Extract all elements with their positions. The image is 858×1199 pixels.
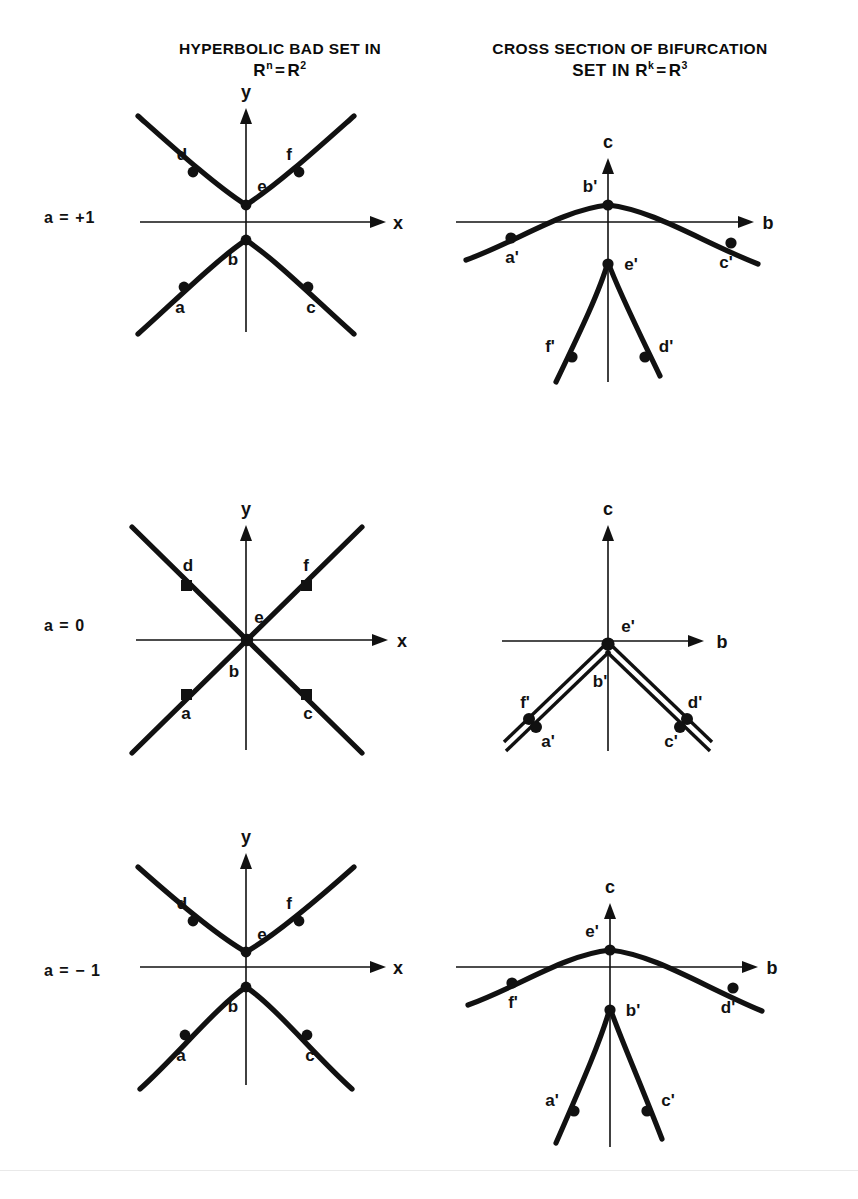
point-label-c: c <box>303 704 312 723</box>
bifurcation-cusp-right-branch <box>608 262 660 376</box>
x-axis-label: x <box>393 213 403 233</box>
y-axis-label: c <box>603 499 613 519</box>
bifurcation-cusp-right-branch <box>610 1008 662 1139</box>
x-axis-label: x <box>397 631 407 651</box>
axes-group <box>136 525 388 750</box>
panel-row3-right-svg: e' f' d' b' a' c' b c <box>450 875 785 1155</box>
column-title-right: CROSS SECTION OF BIFURCATION SET IN Rk=R… <box>470 38 790 82</box>
y-axis-arrowhead <box>602 158 614 174</box>
point-dot-origin <box>241 634 253 646</box>
point-dot-c <box>302 1030 313 1041</box>
point-dot-d <box>188 167 199 178</box>
figure-root: HYPERBOLIC BAD SET IN Rn=R2 CROSS SECTIO… <box>0 0 858 1199</box>
point-label-a: a <box>181 704 191 723</box>
panel-row2-right: e' b' f' a' d' c' b c <box>460 495 790 760</box>
row-label-a-minus-1: a = − 1 <box>44 962 101 980</box>
point-label-e-prime: e' <box>624 255 638 274</box>
row-label-a-plus-1: a = +1 <box>44 209 95 227</box>
point-label-d: d <box>177 145 187 164</box>
point-label-a: a <box>175 298 185 317</box>
left-title-base2: R <box>288 61 301 80</box>
scan-edge-line <box>0 1170 858 1171</box>
column-title-right-line2: SET IN Rk=R3 <box>470 60 790 82</box>
right-title-base1: SET IN R <box>572 61 648 80</box>
right-title-sup2: 3 <box>682 59 688 71</box>
y-axis-label: y <box>241 499 251 519</box>
point-dot-d-prime <box>639 351 650 362</box>
column-title-left-line2: Rn=R2 <box>150 60 410 82</box>
x-axis-arrowhead <box>370 216 386 228</box>
point-label-f-prime: f' <box>545 337 555 356</box>
point-label-e: e <box>257 925 266 944</box>
x-axis-label: b <box>717 632 728 652</box>
panel-row1-right-svg: b' a' c' e' f' d' b c <box>450 130 780 390</box>
point-label-b: b <box>229 662 239 681</box>
y-axis-arrowhead <box>240 525 252 541</box>
x-axis-label: b <box>763 213 774 233</box>
point-label-a-prime: a' <box>505 248 519 267</box>
x-axis-arrowhead <box>738 216 754 228</box>
left-title-sup2: 2 <box>300 59 306 71</box>
point-dot-b <box>241 235 252 246</box>
x-axis-label: x <box>393 958 403 978</box>
point-label-d-prime: d' <box>688 693 702 712</box>
point-dot-a-prime <box>505 232 516 243</box>
point-label-c: c <box>305 1046 314 1065</box>
y-axis-arrowhead <box>604 903 616 919</box>
column-title-left: HYPERBOLIC BAD SET IN Rn=R2 <box>150 38 410 82</box>
x-axis-arrowhead <box>688 635 704 647</box>
point-dot-f-prime <box>506 977 517 988</box>
y-axis-label: y <box>241 827 251 847</box>
point-dot-b <box>241 982 252 993</box>
point-dot-f-prime <box>566 351 577 362</box>
point-dot-a-prime <box>568 1105 579 1116</box>
x-axis-arrowhead <box>372 634 388 646</box>
left-title-base1: R <box>253 61 266 80</box>
panel-row1-left-svg: d e f a b c x y <box>120 100 410 350</box>
y-axis-label: c <box>605 877 615 897</box>
y-axis-arrowhead <box>602 525 614 541</box>
point-label-d: d <box>183 556 193 575</box>
point-label-c-prime: c' <box>719 253 733 272</box>
panel-row2-left-svg: d f e b a c x y <box>130 495 420 760</box>
point-dot-e <box>241 200 252 211</box>
point-label-d: d <box>177 894 187 913</box>
point-dot-f <box>294 167 305 178</box>
point-label-a: a <box>176 1046 186 1065</box>
bifurcation-cusp-left-branch <box>556 262 608 382</box>
y-axis-arrowhead <box>240 108 252 124</box>
point-label-a-prime: a' <box>545 1091 559 1110</box>
point-dot-e <box>241 947 252 958</box>
right-title-eq: = <box>654 61 668 80</box>
column-title-right-line1: CROSS SECTION OF BIFURCATION <box>492 40 767 57</box>
point-dot-c <box>301 689 312 700</box>
y-axis-arrowhead <box>240 853 252 869</box>
point-label-d-prime: d' <box>721 998 735 1017</box>
point-label-b-prime: b' <box>583 177 597 196</box>
column-title-left-line1: HYPERBOLIC BAD SET IN <box>179 40 381 57</box>
point-label-b-prime: b' <box>626 1001 640 1020</box>
point-label-e-prime: e' <box>585 922 599 941</box>
point-dot-e-prime <box>604 944 615 955</box>
x-axis-label: b <box>767 958 778 978</box>
panel-row2-left: d f e b a c x y <box>130 495 420 760</box>
left-title-eq: = <box>273 61 287 80</box>
y-axis-label: c <box>603 132 613 152</box>
point-dot-e-prime <box>601 637 614 650</box>
fold-line-right-upper <box>608 642 712 742</box>
panel-row1-right: b' a' c' e' f' d' b c <box>450 130 780 390</box>
point-dot-e-prime <box>602 258 613 269</box>
point-label-e: e <box>257 177 266 196</box>
point-label-b: b <box>228 997 238 1016</box>
point-label-c: c <box>306 298 315 317</box>
point-dot-c-prime <box>725 237 736 248</box>
row-label-a-zero: a = 0 <box>44 617 85 635</box>
point-label-d-prime: d' <box>659 337 673 356</box>
point-dot-a <box>179 282 190 293</box>
point-dot-f <box>294 916 305 927</box>
panel-row3-left-svg: d e f a b c x y <box>120 845 410 1105</box>
point-dot-d <box>188 916 199 927</box>
fold-line-left-upper <box>504 642 608 742</box>
point-label-b-prime: b' <box>593 672 607 691</box>
panel-row1-left: d e f a b c x y <box>120 100 410 350</box>
